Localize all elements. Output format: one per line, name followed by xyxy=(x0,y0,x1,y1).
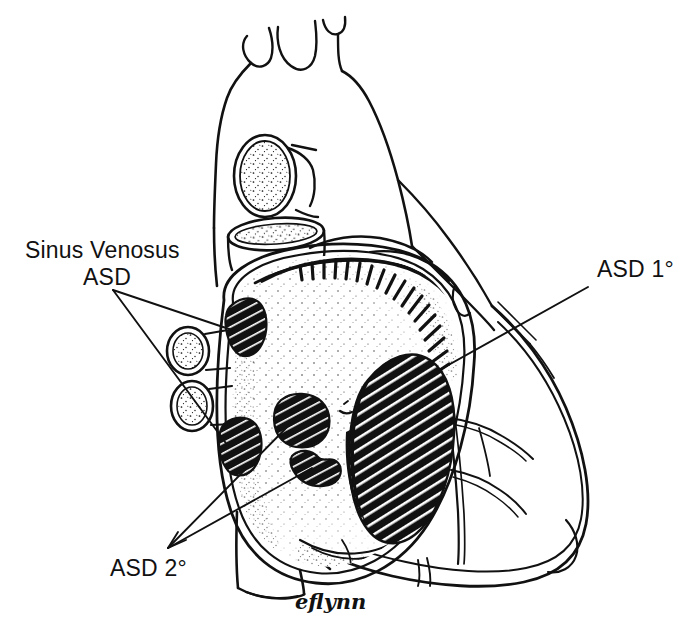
label-sinus-venosus-asd-line1: Sinus Venosus xyxy=(25,237,180,263)
superior-vena-cava-stump xyxy=(234,135,318,217)
aortic-arch-and-branches xyxy=(214,17,412,246)
leader-sinus-venosus-superior xyxy=(113,290,232,330)
label-sinus-venosus-asd-line2: ASD xyxy=(83,264,131,290)
artist-signature: eflynn xyxy=(295,589,366,614)
label-asd-secundum: ASD 2° xyxy=(110,555,187,581)
defect-sinus-venosus-inferior xyxy=(219,418,262,476)
pulmonary-vein-stumps xyxy=(167,327,234,431)
defect-sinus-venosus-superior xyxy=(225,298,266,356)
leader-sinus-venosus-inferior xyxy=(113,290,228,446)
figure-container: Sinus Venosus ASD ASD 1° ASD 2° eflynn xyxy=(0,0,681,635)
label-asd-primum: ASD 1° xyxy=(597,256,674,282)
defect-ostium-secundum-central xyxy=(274,394,330,448)
heart-anatomy-illustration: Sinus Venosus ASD ASD 1° ASD 2° eflynn xyxy=(0,0,681,635)
